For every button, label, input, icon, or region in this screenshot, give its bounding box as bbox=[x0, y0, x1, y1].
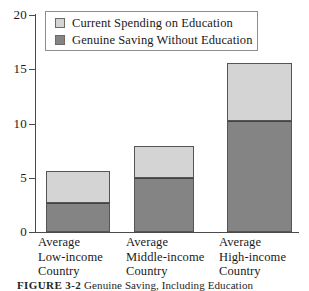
bar-segment-genuine-saving bbox=[46, 203, 110, 232]
bar-stack bbox=[134, 146, 194, 232]
legend-swatch-icon-dark bbox=[55, 35, 65, 45]
category-label-line: Country bbox=[219, 264, 286, 279]
bar-segment-current-spending bbox=[227, 63, 292, 122]
bar-segment-current-spending bbox=[134, 146, 194, 177]
legend-label-current-spending: Current Spending on Education bbox=[72, 17, 233, 30]
category-label: AverageMiddle-incomeCountry bbox=[126, 235, 204, 279]
category-label-line: Middle-income bbox=[126, 250, 204, 265]
bar-segment-genuine-saving bbox=[134, 178, 194, 232]
category-label-line: Country bbox=[126, 264, 204, 279]
bar-segment-genuine-saving bbox=[227, 121, 292, 232]
y-tick-label: 5 bbox=[1, 171, 27, 184]
category-label-line: Low-income bbox=[38, 250, 103, 265]
caption-figure-number: FIGURE 3-2 bbox=[17, 279, 81, 291]
category-label-line: Average bbox=[126, 235, 204, 250]
bar-stack bbox=[227, 63, 292, 232]
category-label-line: Average bbox=[38, 235, 103, 250]
legend-item-genuine-saving: Genuine Saving Without Education bbox=[55, 32, 257, 48]
bar-stack bbox=[46, 171, 110, 232]
category-label-line: High-income bbox=[219, 250, 286, 265]
y-tick-label-wrap: 15 bbox=[0, 62, 27, 75]
figure-caption: FIGURE 3-2 Genuine Saving, Including Edu… bbox=[17, 279, 307, 291]
chart-legend: Current Spending on Education Genuine Sa… bbox=[45, 11, 258, 51]
y-tick-label-wrap: 10 bbox=[0, 117, 27, 130]
y-tick-label: 0 bbox=[1, 225, 27, 238]
legend-label-genuine-saving: Genuine Saving Without Education bbox=[72, 34, 253, 47]
category-label-line: Average bbox=[219, 235, 286, 250]
legend-item-current-spending: Current Spending on Education bbox=[55, 15, 257, 31]
legend-swatch-icon-light bbox=[55, 18, 65, 28]
y-tick-mark bbox=[29, 232, 36, 233]
y-tick-label-wrap: 0 bbox=[0, 225, 27, 238]
bar-segment-current-spending bbox=[46, 171, 110, 202]
y-tick-mark bbox=[29, 124, 36, 125]
category-label: AverageHigh-incomeCountry bbox=[219, 235, 286, 279]
y-tick-label: 10 bbox=[1, 117, 27, 130]
category-label-line: Country bbox=[38, 264, 103, 279]
y-tick-label-wrap: 5 bbox=[0, 171, 27, 184]
x-axis-line bbox=[35, 232, 299, 233]
y-tick-label-wrap: 20 bbox=[0, 8, 27, 21]
y-tick-label: 20 bbox=[1, 8, 27, 21]
y-tick-label: 15 bbox=[1, 62, 27, 75]
caption-text: Genuine Saving, Including Education bbox=[84, 279, 253, 291]
y-tick-mark bbox=[29, 69, 36, 70]
category-label: AverageLow-incomeCountry bbox=[38, 235, 103, 279]
y-tick-mark bbox=[29, 178, 36, 179]
y-tick-mark bbox=[29, 15, 36, 16]
